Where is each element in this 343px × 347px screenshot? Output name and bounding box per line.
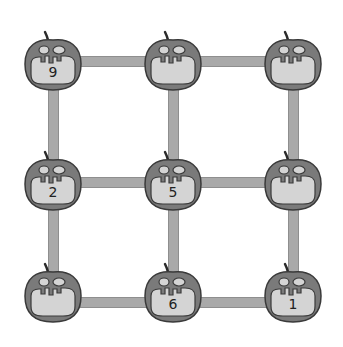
connector-r1-c2-c3 <box>200 56 270 67</box>
connector-r2-c2-c3 <box>200 177 270 188</box>
connector-r3-c2-c3 <box>200 297 270 308</box>
pumpkin-node-r2c3 <box>261 150 325 214</box>
pumpkin-icon <box>261 30 325 94</box>
connector-r3-c1-c2 <box>80 297 150 308</box>
connector-r2-c1-c2 <box>80 177 150 188</box>
pumpkin-node-r1c1: 9 <box>21 30 85 94</box>
pumpkin-icon <box>21 150 85 214</box>
pumpkin-node-r1c3 <box>261 30 325 94</box>
pumpkin-node-r2c1: 2 <box>21 150 85 214</box>
node-number: 5 <box>141 184 205 200</box>
node-number: 1 <box>261 296 325 312</box>
node-number: 6 <box>141 296 205 312</box>
pumpkin-node-r3c3: 1 <box>261 262 325 326</box>
pumpkin-node-r1c2 <box>141 30 205 94</box>
pumpkin-icon <box>141 150 205 214</box>
pumpkin-icon <box>21 262 85 326</box>
pumpkin-icon <box>141 262 205 326</box>
pumpkin-node-r3c1 <box>21 262 85 326</box>
node-number: 9 <box>21 64 85 80</box>
pumpkin-node-r3c2: 6 <box>141 262 205 326</box>
pumpkin-icon <box>141 30 205 94</box>
pumpkin-icon <box>21 30 85 94</box>
pumpkin-node-r2c2: 5 <box>141 150 205 214</box>
pumpkin-icon <box>261 150 325 214</box>
node-number: 2 <box>21 184 85 200</box>
pumpkin-icon <box>261 262 325 326</box>
connector-r1-c1-c2 <box>80 56 150 67</box>
